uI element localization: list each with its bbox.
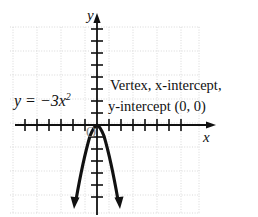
x-axis xyxy=(15,121,216,128)
x-axis-label: x xyxy=(203,130,210,145)
origin-label: O xyxy=(86,126,96,140)
y-axis-label-text: y xyxy=(87,7,94,23)
y-axis-label: y xyxy=(87,8,94,23)
equation-exponent: 2 xyxy=(66,91,71,102)
equation-label: y = −3x2 xyxy=(14,92,71,109)
parabola-figure: O y x y = −3x2 Vertex, x-intercept, y-in… xyxy=(0,0,258,217)
equation-lhs: y = −3x xyxy=(14,92,66,109)
grid-lines xyxy=(10,27,200,213)
annotation-line-2: y-intercept (0, 0) xyxy=(108,99,206,114)
annotation-line-1: Vertex, x-intercept, xyxy=(110,78,222,93)
x-axis-label-text: x xyxy=(203,129,210,145)
